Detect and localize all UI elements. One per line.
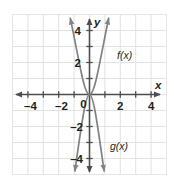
graph-figure: –4 –2 2 4 0 4 2 –2 –4 y x f(x) g(x)	[0, 0, 174, 183]
coordinate-plane-graph: –4 –2 2 4 0 4 2 –2 –4 y x f(x) g(x)	[0, 0, 174, 183]
x-tick-label-2: 2	[117, 100, 123, 112]
curve-label-g: g(x)	[110, 140, 128, 152]
x-tick-label-4: 4	[148, 100, 155, 112]
x-tick-label-minus-4: –4	[24, 100, 37, 112]
curve-label-f: f(x)	[117, 49, 132, 61]
y-tick-label-minus-4: –4	[70, 153, 83, 165]
y-axis-label: y	[93, 16, 101, 28]
x-tick-label-minus-2: –2	[55, 100, 68, 112]
y-tick-label-4: 4	[75, 25, 82, 37]
y-tick-label-2: 2	[75, 57, 81, 69]
y-tick-label-minus-2: –2	[70, 121, 83, 133]
origin-label: 0	[80, 98, 86, 110]
x-axis-label: x	[154, 79, 162, 91]
